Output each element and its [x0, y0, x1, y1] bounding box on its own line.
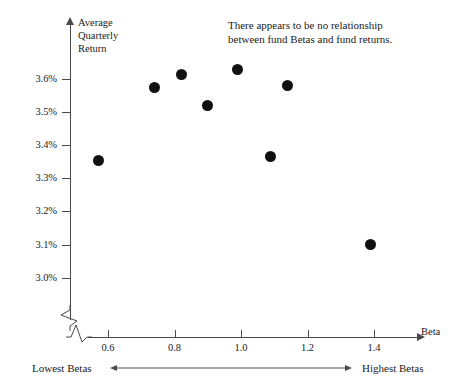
- data-point: [232, 64, 243, 75]
- data-point: [365, 239, 376, 250]
- data-point: [93, 155, 104, 166]
- data-point: [149, 82, 160, 93]
- range-label-highest-betas: Highest Betas: [362, 363, 423, 374]
- data-point: [282, 80, 293, 91]
- range-label-lowest-betas: Lowest Betas: [32, 363, 92, 374]
- data-points-layer: [0, 0, 459, 390]
- range-double-arrow-icon: [110, 362, 352, 374]
- data-point: [265, 151, 276, 162]
- scatter-plot-figure: Average Quarterly Return Beta There appe…: [0, 0, 459, 390]
- data-point: [176, 69, 187, 80]
- data-point: [202, 100, 213, 111]
